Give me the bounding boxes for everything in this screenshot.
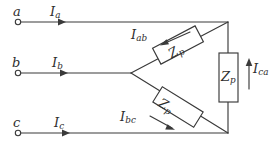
terminal-label-b: b [12, 56, 20, 69]
line-current-label-a: Ia [50, 5, 61, 20]
circuit-diagram: a b c Ia Ib Ic Iab Ibc Ica Zp Zp Zp [0, 0, 276, 148]
terminal-a-node [15, 19, 20, 24]
line-current-c-subscript: c [59, 121, 64, 131]
line-current-label-c: Ic [54, 116, 64, 131]
phase-current-ca-subscript: ca [258, 67, 269, 77]
phase-current-label-ca: Ica [253, 62, 269, 77]
impedance-label-zp-ca: Zp [221, 70, 236, 85]
phase-current-ab-subscript: ab [136, 33, 147, 43]
terminal-b-node [15, 70, 20, 75]
line-current-b-subscript: b [57, 61, 63, 71]
phase-current-label-bc: Ibc [120, 110, 136, 125]
terminal-label-a: a [13, 5, 21, 18]
line-current-a-subscript: a [55, 10, 60, 20]
terminal-label-c: c [13, 116, 20, 129]
phase-current-bc-subscript: bc [125, 115, 136, 125]
phase-current-label-ab: Iab [131, 28, 147, 43]
impedance-ca-subscript: p [230, 75, 236, 85]
line-current-label-b: Ib [52, 56, 63, 71]
terminal-c-node [15, 130, 20, 135]
arrowhead-phase-current-ca [246, 58, 253, 66]
impedance-ca-symbol: Z [221, 69, 230, 84]
